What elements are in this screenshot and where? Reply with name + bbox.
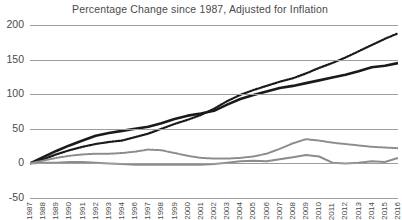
x-axis-tick-label: 1992 (92, 202, 100, 220)
gridline-0 (30, 163, 398, 164)
gridline-200 (30, 25, 398, 26)
x-axis-tick-label: 1998 (157, 202, 165, 220)
x-axis-labels: 1987198819891990199119921993199419961997… (30, 198, 398, 220)
x-axis-tick-label: 2000 (184, 202, 192, 220)
x-axis-tick-label: 2009 (302, 202, 310, 220)
x-axis-tick-label: 2014 (368, 202, 376, 220)
x-axis-tick-label: 1999 (171, 202, 179, 220)
x-axis-tick-label: 1994 (118, 202, 126, 220)
x-axis-tick-label: 1997 (144, 202, 152, 220)
gridline-50 (30, 129, 398, 130)
gridline-100 (30, 94, 398, 95)
x-axis-tick-label: 1993 (105, 202, 113, 220)
x-axis-tick-label: 1988 (39, 202, 47, 220)
x-axis-tick-label: 2004 (236, 202, 244, 220)
y-axis-tick-label: 100 (0, 87, 24, 99)
chart-title: Percentage Change since 1987, Adjusted f… (0, 3, 400, 15)
plot-area: 200150100500-50 (30, 25, 398, 198)
x-axis-tick-label: 2012 (341, 202, 349, 220)
x-axis-tick-label: 2003 (223, 202, 231, 220)
x-axis-tick-label: 2002 (210, 202, 218, 220)
x-axis-tick-label: 1989 (52, 202, 60, 220)
x-axis-tick-label: 2008 (289, 202, 297, 220)
series-gray-dotted (30, 139, 398, 163)
x-axis-tick-label: 2005 (249, 202, 257, 220)
x-axis-tick-label: 2010 (315, 202, 323, 220)
x-axis-tick-label: 1987 (26, 202, 34, 220)
x-axis-tick-label: 2016 (394, 202, 402, 220)
x-axis-tick-label: 2011 (328, 203, 336, 220)
y-axis-tick-label: 200 (0, 18, 24, 30)
gridline-150 (30, 60, 398, 61)
series-black-solid (30, 63, 398, 163)
x-axis-tick-label: 2001 (197, 202, 205, 220)
x-axis-tick-label: 2007 (276, 202, 284, 220)
series-layer (30, 25, 398, 198)
x-axis-tick-label: 1991 (79, 202, 87, 220)
x-axis-tick-label: 1996 (131, 202, 139, 220)
y-axis-tick-label: 50 (0, 122, 24, 134)
y-axis-tick-label: 0 (0, 156, 24, 168)
x-axis-tick-label: 2006 (263, 202, 271, 220)
x-axis-tick-label: 2015 (381, 202, 389, 220)
x-axis-tick-label: 1990 (65, 202, 73, 220)
x-axis-tick-label: 2013 (355, 202, 363, 220)
y-axis-tick-label: -50 (0, 191, 24, 203)
y-axis-tick-label: 150 (0, 53, 24, 65)
